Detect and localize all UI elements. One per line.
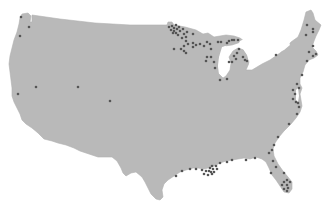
- location-marker: [306, 24, 309, 27]
- location-marker: [298, 87, 301, 90]
- location-marker: [209, 167, 212, 170]
- location-marker: [28, 26, 31, 29]
- location-marker: [277, 136, 280, 139]
- location-marker: [175, 175, 178, 178]
- location-marker: [216, 168, 219, 171]
- location-marker: [298, 106, 301, 109]
- location-marker: [199, 43, 202, 46]
- location-marker: [187, 43, 190, 46]
- location-marker: [212, 168, 215, 171]
- location-marker: [185, 40, 188, 43]
- location-marker: [217, 41, 220, 44]
- location-marker: [214, 67, 217, 70]
- location-marker: [207, 174, 210, 177]
- location-marker: [195, 44, 198, 47]
- location-marker: [287, 187, 290, 190]
- location-marker: [183, 45, 186, 48]
- location-marker: [226, 78, 229, 81]
- location-marker: [219, 162, 222, 165]
- location-marker: [312, 45, 315, 48]
- location-marker: [215, 165, 218, 168]
- location-marker: [308, 51, 311, 54]
- location-marker: [231, 159, 234, 162]
- location-marker: [312, 28, 315, 31]
- location-marker: [233, 55, 236, 58]
- location-marker: [292, 98, 295, 101]
- location-marker: [312, 31, 315, 34]
- location-marker: [192, 42, 195, 45]
- location-marker: [235, 58, 238, 61]
- location-marker: [205, 170, 208, 173]
- location-marker: [301, 74, 304, 77]
- location-marker: [272, 160, 275, 163]
- location-marker: [242, 56, 245, 59]
- location-marker: [185, 36, 188, 39]
- location-marker: [270, 172, 273, 175]
- location-marker: [296, 83, 299, 86]
- location-marker: [238, 48, 241, 51]
- location-marker: [228, 40, 231, 43]
- location-marker: [192, 46, 195, 49]
- location-marker: [275, 166, 278, 169]
- location-marker: [109, 100, 112, 103]
- location-marker: [306, 60, 309, 63]
- location-marker: [312, 55, 315, 58]
- location-marker: [297, 102, 300, 105]
- location-marker: [273, 144, 276, 147]
- location-marker: [231, 61, 234, 64]
- location-marker: [271, 149, 274, 152]
- location-marker: [210, 48, 213, 51]
- location-marker: [203, 45, 206, 48]
- location-marker: [77, 86, 80, 89]
- location-marker: [233, 39, 236, 42]
- location-marker: [173, 48, 176, 51]
- location-marker: [182, 28, 185, 31]
- location-marker: [283, 172, 286, 175]
- location-marker: [220, 41, 223, 44]
- location-marker: [211, 173, 214, 176]
- location-marker: [175, 24, 178, 27]
- location-marker: [181, 170, 184, 173]
- location-marker: [268, 152, 271, 155]
- location-marker: [206, 56, 209, 59]
- location-marker: [183, 50, 186, 53]
- location-marker: [281, 184, 284, 187]
- location-marker: [286, 184, 289, 187]
- location-marker: [213, 61, 216, 64]
- location-marker: [275, 54, 278, 57]
- location-marker: [219, 79, 222, 82]
- location-marker: [296, 113, 299, 116]
- location-marker: [245, 159, 248, 162]
- location-marker: [209, 43, 212, 46]
- location-marker: [183, 33, 186, 36]
- location-marker: [236, 52, 239, 55]
- location-marker: [286, 190, 289, 193]
- location-marker: [172, 32, 175, 35]
- location-marker: [283, 181, 286, 184]
- location-marker: [171, 25, 174, 28]
- location-marker: [213, 171, 216, 174]
- location-marker: [226, 42, 229, 45]
- location-marker: [289, 181, 292, 184]
- location-marker: [206, 41, 209, 44]
- location-marker: [177, 34, 180, 37]
- location-marker: [179, 30, 182, 33]
- location-marker: [226, 161, 229, 164]
- location-marker: [176, 28, 179, 31]
- location-marker: [205, 60, 208, 63]
- location-marker: [17, 93, 20, 96]
- us-map: [0, 0, 335, 214]
- location-marker: [186, 31, 189, 34]
- location-marker: [175, 32, 178, 35]
- location-marker: [315, 53, 318, 56]
- location-marker: [210, 56, 213, 59]
- location-marker: [283, 188, 286, 191]
- location-marker: [192, 33, 195, 36]
- location-marker: [20, 16, 23, 19]
- location-marker: [195, 168, 198, 171]
- location-marker: [170, 29, 173, 32]
- location-marker: [185, 52, 188, 55]
- location-marker: [189, 168, 192, 171]
- location-marker: [246, 60, 249, 63]
- location-marker: [294, 93, 297, 96]
